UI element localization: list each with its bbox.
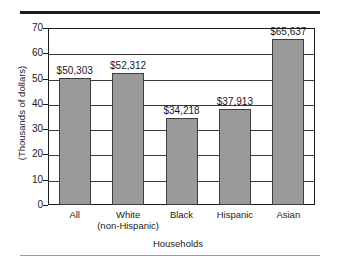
y-tick-label: 70	[3, 23, 43, 33]
bar-value-label: $50,303	[45, 65, 105, 76]
bar	[166, 118, 198, 205]
x-tick-label-line: Black	[170, 209, 193, 220]
bar-value-label: $37,913	[205, 96, 265, 107]
y-tick-mark	[43, 154, 48, 155]
y-tick-mark	[43, 129, 48, 130]
x-tick-label: Asian	[248, 209, 328, 220]
bar-value-label: $65,637	[258, 26, 318, 37]
y-tick-mark	[43, 53, 48, 54]
x-tick-label-line: Asian	[276, 209, 300, 220]
bar	[112, 73, 144, 205]
y-tick-label: 20	[3, 149, 43, 159]
top-rule	[20, 11, 320, 14]
bar-value-label: $34,218	[152, 105, 212, 116]
y-tick-label: 50	[3, 74, 43, 84]
bar	[272, 39, 304, 205]
y-tick-mark	[43, 28, 48, 29]
x-tick-label-line: (non-Hispanic)	[88, 220, 168, 231]
y-tick-mark	[43, 180, 48, 181]
y-tick-label: 40	[3, 99, 43, 109]
x-tick-label-line: White	[116, 209, 140, 220]
y-tick-label: 60	[3, 48, 43, 58]
y-tick-mark	[43, 205, 48, 206]
y-tick-mark	[43, 104, 48, 105]
x-tick-label-line: All	[69, 209, 80, 220]
y-tick-mark	[43, 79, 48, 80]
bar	[219, 109, 251, 205]
x-axis-title: Households	[40, 238, 316, 249]
bottom-rule	[20, 255, 320, 256]
bar-value-label: $52,312	[98, 60, 158, 71]
chart-figure: (Thousands of dollars) 010203040506070 $…	[0, 0, 340, 267]
y-tick-label: 10	[3, 175, 43, 185]
bar	[59, 78, 91, 205]
y-tick-label: 30	[3, 124, 43, 134]
